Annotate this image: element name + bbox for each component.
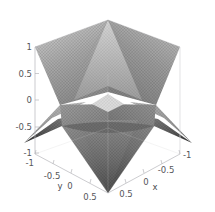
surface-plot-figure: 1 0.5 0 -0.5 -1 -1 -0.5 0 0.5 -1 -0.5 0 … (0, 0, 215, 212)
x-tick-label-1: -0.5 (158, 165, 175, 175)
y-tick-label-2: 0 (67, 181, 72, 191)
z-tick-label-4: -1 (24, 148, 32, 158)
z-tick-label-1: 0.5 (18, 69, 32, 79)
z-tick-label-3: -0.5 (15, 122, 32, 132)
x-tick-0.5 (125, 179, 126, 183)
z-axis-tick-labels: 1 0.5 0 -0.5 -1 (15, 42, 32, 158)
y-tick-label-1: -0.5 (44, 171, 61, 181)
y-tick-neg0.5 (53, 160, 54, 164)
y-tick-label-3: 0.5 (83, 192, 97, 202)
x-axis-label: x (152, 182, 157, 192)
z-tick-label-2: 0 (27, 95, 32, 105)
plot-canvas: 1 0.5 0 -0.5 -1 -1 -0.5 0 0.5 -1 -0.5 0 … (0, 0, 215, 212)
y-tick-0 (71, 169, 72, 173)
z-tick-label-0: 1 (27, 42, 32, 52)
x-tick-0 (143, 169, 144, 173)
x-tick-label-0: -1 (183, 150, 191, 160)
y-axis-label: y (57, 181, 62, 191)
x-tick-neg0.5 (161, 160, 162, 164)
y-axis-tick-labels: -1 -0.5 0 0.5 (26, 158, 97, 202)
y-tick-0.5 (90, 179, 91, 183)
x-tick-label-3: 0.5 (119, 189, 133, 199)
x-tick-label-2: 0 (143, 177, 148, 187)
y-tick-label-0: -1 (26, 158, 34, 168)
